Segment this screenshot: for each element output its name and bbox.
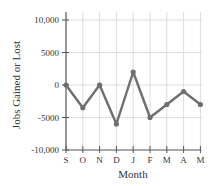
x-tick-label: D bbox=[113, 155, 120, 165]
x-tick-label: N bbox=[96, 155, 103, 165]
data-point-marker bbox=[97, 82, 102, 87]
grid bbox=[66, 12, 202, 150]
x-tick-label: J bbox=[131, 155, 135, 165]
y-tick-label: 5000 bbox=[41, 48, 60, 58]
data-point-marker bbox=[181, 89, 186, 94]
x-axis-ticks: SONDJFMAM bbox=[63, 146, 204, 165]
data-point-marker bbox=[198, 102, 203, 107]
x-axis-title: Month bbox=[118, 168, 148, 180]
data-point-marker bbox=[80, 105, 85, 110]
y-tick-label: 10,000 bbox=[34, 15, 59, 25]
data-point-marker bbox=[131, 69, 136, 74]
y-tick-label: 0 bbox=[55, 80, 60, 90]
y-axis-ticks: 10,00050000-5000-10,000 bbox=[31, 15, 69, 155]
data-point-marker bbox=[164, 102, 169, 107]
x-tick-label: M bbox=[196, 155, 204, 165]
data-point-marker bbox=[63, 82, 68, 87]
y-tick-label: -10,000 bbox=[31, 145, 59, 155]
data-point-marker bbox=[147, 115, 152, 120]
line-chart: 10,00050000-5000-10,000 SONDJFMAM Month … bbox=[0, 0, 212, 186]
y-tick-label: -5000 bbox=[38, 113, 59, 123]
x-tick-label: A bbox=[180, 155, 187, 165]
x-tick-label: M bbox=[163, 155, 171, 165]
y-axis-title: Jobs Gained or Lost bbox=[10, 41, 22, 129]
x-tick-label: S bbox=[63, 155, 68, 165]
data-point-marker bbox=[114, 121, 119, 126]
x-tick-label: O bbox=[80, 155, 87, 165]
x-tick-label: F bbox=[147, 155, 152, 165]
